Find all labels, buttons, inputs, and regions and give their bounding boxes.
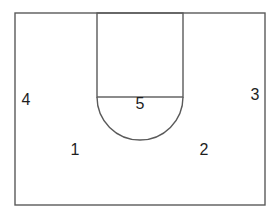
position-1-label: 1 (68, 142, 82, 158)
position-2-label: 2 (197, 142, 211, 158)
position-4-label: 4 (19, 92, 33, 108)
free-throw-lane (97, 13, 183, 97)
position-3-label: 3 (248, 87, 262, 103)
position-5-label: 5 (133, 96, 147, 112)
